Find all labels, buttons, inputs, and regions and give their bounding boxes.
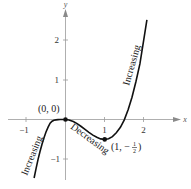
x-axis-arrow-icon bbox=[173, 117, 181, 122]
function-graph: x y −1 1 2 2 1 −1 (0, 0) (1, − 1 2 ) Inc… bbox=[0, 0, 191, 189]
tick-label-x-1: 1 bbox=[102, 125, 107, 135]
tick-label-x-2: 2 bbox=[141, 125, 146, 135]
x-axis-label: x bbox=[182, 115, 187, 124]
tick-label-y-1: 1 bbox=[55, 75, 60, 85]
tick-label-y-neg1: −1 bbox=[50, 154, 60, 164]
label-point-origin: (0, 0) bbox=[38, 103, 60, 115]
svg-text:): ) bbox=[138, 141, 141, 153]
y-axis-arrow-icon bbox=[63, 9, 68, 17]
svg-text:(1, −: (1, − bbox=[111, 141, 130, 153]
y-axis-label: y bbox=[63, 0, 68, 9]
label-increasing-left: Increasing bbox=[19, 134, 45, 177]
point-origin bbox=[63, 117, 68, 122]
tick-label-x-neg1: −1 bbox=[19, 125, 29, 135]
tick-label-y-2: 2 bbox=[55, 35, 60, 45]
svg-text:1: 1 bbox=[133, 141, 136, 147]
svg-text:2: 2 bbox=[133, 148, 136, 154]
label-point-min: (1, − 1 2 ) bbox=[111, 141, 141, 154]
